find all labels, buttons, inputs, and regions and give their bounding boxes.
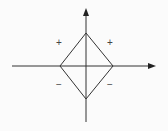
label-lower-right-minus: − — [105, 80, 115, 90]
label-upper-left-plus: + — [54, 38, 64, 48]
diamond-axes-diagram: + + − − — [0, 0, 168, 131]
diagram-canvas — [0, 0, 168, 131]
label-lower-left-minus: − — [54, 80, 64, 90]
label-upper-right-plus: + — [105, 38, 115, 48]
y-axis-arrow-icon — [83, 8, 89, 16]
x-axis-arrow-icon — [148, 63, 156, 69]
